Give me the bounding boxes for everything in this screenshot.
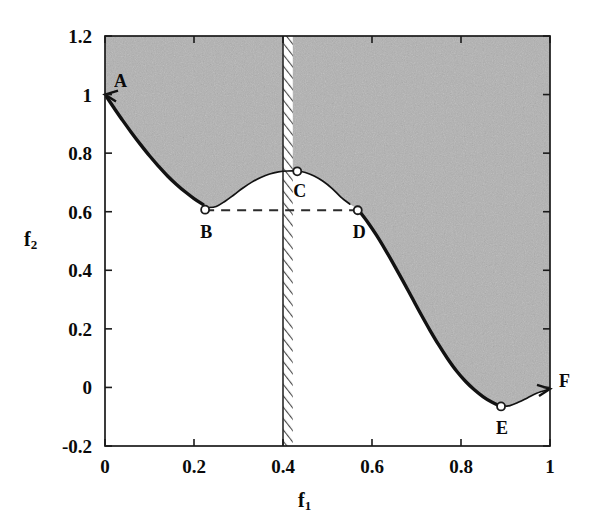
point-marker-d [354, 206, 362, 214]
ytick-label: 0.8 [30, 143, 92, 165]
ytick-label: 1 [30, 85, 92, 107]
y-axis-title-base: f [24, 228, 31, 250]
ytick-label: 0.2 [30, 319, 92, 341]
chart-figure: 1.2 1 0.8 0.6 0.4 0.2 0 -0.2 0 0.2 0.4 0… [0, 0, 603, 530]
ytick-label: 0 [30, 377, 92, 399]
ytick-label: -0.2 [20, 436, 92, 458]
point-label-f: F [559, 371, 570, 392]
x-axis-title-base: f [298, 489, 305, 511]
xtick-label: 0.8 [436, 456, 486, 478]
ytick-label: 1.2 [30, 26, 92, 48]
point-label-a: A [114, 71, 127, 92]
y-axis-title-sub: 2 [31, 237, 38, 252]
xtick-label: 0.6 [347, 456, 397, 478]
x-axis-title-sub: 1 [305, 498, 312, 513]
xtick-label: 1 [525, 456, 575, 478]
point-label-d: D [353, 222, 366, 243]
ytick-label: 0.4 [30, 260, 92, 282]
x-axis-title: f1 [298, 489, 311, 514]
xtick-label: 0.4 [258, 456, 308, 478]
xtick-label: 0 [80, 456, 130, 478]
point-label-b: B [200, 222, 212, 243]
point-label-c: C [293, 181, 306, 202]
point-marker-e [497, 402, 505, 410]
hatched-band [283, 36, 293, 446]
y-axis-title: f2 [24, 228, 37, 253]
point-marker-b [201, 206, 209, 214]
xtick-label: 0.2 [169, 456, 219, 478]
ytick-label: 0.6 [30, 202, 92, 224]
point-marker-c [293, 167, 301, 175]
point-label-e: E [496, 418, 508, 439]
